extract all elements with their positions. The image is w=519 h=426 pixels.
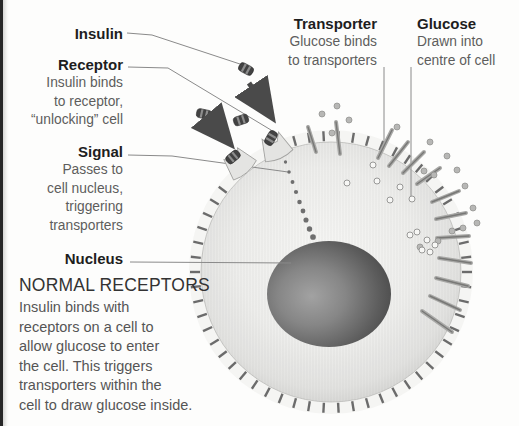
- signal-dot: [297, 200, 302, 205]
- transporter-description: Glucose binds to transporters: [260, 33, 377, 70]
- arrow-icon: [249, 83, 269, 113]
- nucleus-label: Nucleus: [0, 249, 123, 268]
- signal-description: Passes to cell nucleus, triggering trans…: [0, 161, 123, 235]
- caption-body: Insulin binds with receptors on a cell t…: [19, 298, 224, 416]
- arrow-icon: [207, 116, 227, 140]
- signal-dot: [301, 209, 306, 214]
- membrane-tick: [352, 401, 354, 411]
- nucleus-shape: [267, 241, 391, 347]
- signal-dot: [284, 160, 287, 163]
- signal-dot: [307, 226, 312, 231]
- glucose-dot: [421, 168, 427, 174]
- caption-block: NORMAL RECEPTORS Insulin binds with rece…: [19, 275, 224, 416]
- signal-dot: [310, 234, 316, 240]
- glucose-dot: [407, 232, 413, 238]
- figure-normal-receptors: Insulin Receptor Insulin binds to recept…: [0, 0, 519, 426]
- glucose-dot: [374, 178, 380, 184]
- glucose-dot: [462, 183, 468, 189]
- callout-insulin: Insulin: [0, 24, 123, 43]
- glucose-dot: [387, 197, 393, 203]
- insulin-label: Insulin: [0, 24, 123, 43]
- signal-dot: [291, 180, 295, 184]
- membrane-tick: [461, 257, 471, 258]
- caption-heading: NORMAL RECEPTORS: [19, 275, 224, 295]
- glucose-dot: [454, 167, 460, 173]
- membrane-tick: [338, 403, 339, 413]
- glucose-dot: [397, 184, 403, 190]
- callout-glucose: Glucose Drawn into centre of cell: [417, 14, 517, 70]
- glucose-dot: [319, 111, 325, 117]
- glucose-dot: [427, 249, 433, 255]
- leader-line-receptor: [128, 67, 271, 130]
- glucose-dot: [444, 153, 450, 159]
- glucose-dot: [414, 229, 420, 235]
- glucose-dot: [370, 162, 376, 168]
- receptor-description: Insulin binds to receptor, “unlocking” c…: [0, 74, 123, 130]
- callout-signal: Signal Passes to cell nucleus, triggerin…: [0, 142, 123, 235]
- insulin-molecule: [232, 113, 249, 126]
- signal-dot: [294, 190, 298, 194]
- leader-line-insulin: [127, 33, 246, 66]
- glucose-dot: [424, 237, 430, 243]
- membrane-tick: [323, 403, 324, 413]
- glucose-dot: [460, 225, 466, 231]
- receptor-label: Receptor: [0, 55, 123, 74]
- glucose-dot: [334, 103, 340, 109]
- glucose-dot: [474, 220, 480, 226]
- callout-transporter: Transporter Glucose binds to transporter…: [260, 14, 377, 70]
- glucose-label: Glucose: [417, 14, 517, 33]
- membrane-tick: [308, 401, 310, 411]
- glucose-description: Drawn into centre of cell: [417, 33, 517, 70]
- glucose-dot: [329, 130, 335, 136]
- glucose-dot: [344, 180, 350, 186]
- membrane-tick: [191, 257, 201, 258]
- glucose-dot: [431, 172, 437, 178]
- glucose-dot: [409, 196, 415, 202]
- glucose-dot: [419, 247, 425, 253]
- glucose-dot: [449, 228, 455, 234]
- glucose-dot: [432, 242, 438, 248]
- callout-receptor: Receptor Insulin binds to receptor, “unl…: [0, 55, 123, 130]
- glucose-dot: [470, 205, 476, 211]
- transporter-label: Transporter: [260, 14, 377, 33]
- glucose-dot: [427, 139, 433, 145]
- callout-nucleus: Nucleus: [0, 249, 123, 268]
- glucose-dot: [394, 124, 400, 130]
- signal-dot: [303, 217, 308, 222]
- membrane-tick: [323, 131, 324, 141]
- signal-label: Signal: [0, 142, 123, 161]
- membrane-tick: [352, 133, 354, 143]
- glucose-dot: [346, 117, 352, 123]
